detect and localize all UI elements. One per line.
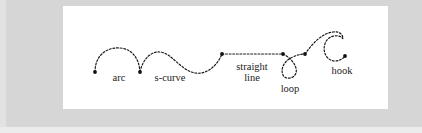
arc-path — [95, 48, 140, 72]
label-hook: hook — [332, 65, 354, 76]
label-arc: arc — [113, 72, 126, 83]
hook-path — [305, 32, 345, 61]
s-curve-path — [140, 52, 222, 73]
label-straight-line-1: straight — [236, 61, 268, 72]
path-types-diagram: arc s-curve straight line loop hook — [0, 0, 422, 133]
node-s-curve-end — [220, 52, 224, 56]
loop-path — [282, 54, 305, 78]
label-s-curve: s-curve — [155, 72, 186, 83]
node-arc-start — [93, 70, 97, 74]
node-loop-end — [303, 52, 307, 56]
node-straight-line-end — [281, 52, 285, 56]
label-loop: loop — [281, 83, 300, 94]
node-arc-end — [138, 70, 142, 74]
label-straight-line-2: line — [244, 72, 260, 83]
node-hook-end — [343, 54, 347, 58]
